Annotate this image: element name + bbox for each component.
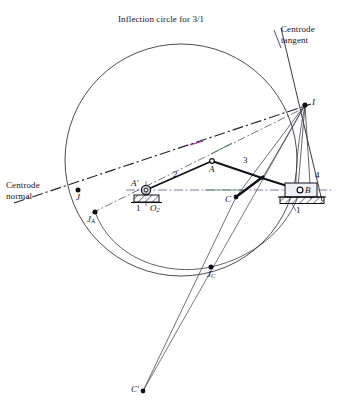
centrode-tangent-label-line2: tangent — [281, 35, 308, 45]
label-point-O2-base: O — [150, 203, 157, 213]
label-link-4: 4 — [315, 170, 320, 181]
label-point-I: I — [312, 97, 315, 108]
ground-block-left — [134, 195, 159, 202]
link-3-coupler-upper — [212, 161, 262, 178]
node-C-prime — [141, 389, 146, 394]
node-A — [210, 159, 215, 164]
label-point-B: B — [305, 185, 311, 196]
label-point-JC: JC — [207, 269, 216, 281]
label-point-A: A — [209, 164, 215, 175]
label-point-JA-sub: A — [91, 217, 95, 224]
centrode-tangent-label-line1: Centrode — [281, 24, 315, 34]
label-link-2: 2 — [173, 169, 178, 180]
centrode-tangent-label: Centrode tangent — [281, 24, 340, 46]
ray-c-to-c-prime — [143, 197, 236, 391]
centrode-normal-label-line2: normal — [6, 191, 32, 201]
label-link-3: 3 — [243, 155, 248, 166]
kinematics-diagram: Inflection circle for 3/1 Centrode tange… — [0, 0, 340, 416]
ray-i-to-jc — [143, 105, 305, 391]
label-point-A-prime: A′ — [131, 178, 139, 189]
label-point-C: C — [225, 194, 231, 205]
centrode-tangent-leader — [274, 30, 281, 48]
inflection-circle — [65, 44, 297, 276]
ground-block-right — [280, 197, 324, 204]
link-3-extension-to-c — [236, 176, 264, 197]
label-point-C-prime: C′ — [131, 384, 139, 395]
node-I — [302, 102, 307, 107]
figure-title: Inflection circle for 3/1 — [118, 14, 204, 25]
auxiliary-arc-jc-right — [211, 199, 297, 267]
label-ground-left: 1 — [136, 203, 141, 214]
diagram-canvas — [0, 0, 340, 416]
auxiliary-arc-ja-jc — [95, 212, 211, 270]
node-coupler-point — [260, 176, 263, 179]
label-point-O2: O2 — [150, 203, 160, 215]
label-point-JA: JA — [87, 214, 95, 226]
pin-joint-b — [297, 187, 303, 193]
label-ground-right: 1 — [296, 205, 301, 216]
label-point-O2-sub: 2 — [157, 206, 160, 213]
link-2-crank — [146, 161, 212, 190]
node-C — [234, 195, 239, 200]
label-point-J: J — [76, 192, 80, 203]
centrode-normal-label-line1: Centrode — [6, 180, 40, 190]
label-point-JC-sub: C — [211, 272, 215, 279]
centrode-normal-label: Centrode normal — [6, 180, 66, 202]
green-accent-segment — [211, 143, 232, 154]
